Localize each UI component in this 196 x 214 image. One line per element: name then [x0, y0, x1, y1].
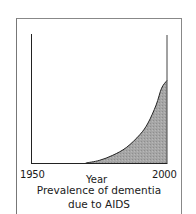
area-series [86, 80, 167, 163]
chart-title-line-1: Prevalence of dementia [16, 184, 182, 198]
x-tick-label-end: 2000 [152, 169, 177, 180]
chart-title-line-2: due to AIDS [16, 198, 182, 212]
x-tick-label-start: 1950 [20, 169, 45, 180]
area-fill [86, 80, 167, 163]
chart-title: Prevalence of dementia due to AIDS [16, 184, 182, 211]
